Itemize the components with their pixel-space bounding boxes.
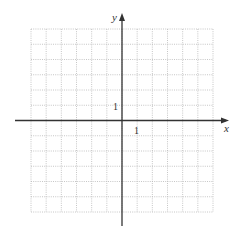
coordinate-plane: x y 1 1 bbox=[0, 0, 236, 235]
y-tick-label-1: 1 bbox=[113, 101, 118, 112]
y-axis-label: y bbox=[111, 11, 117, 23]
x-axis-label: x bbox=[223, 122, 229, 134]
y-axis-arrow-icon bbox=[119, 13, 125, 21]
x-tick-label-1: 1 bbox=[134, 125, 139, 136]
